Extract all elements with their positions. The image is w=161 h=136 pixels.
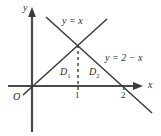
x-axis-arrow-icon bbox=[133, 82, 143, 90]
figure-container: y x O 1 2 y = x y = 2 − x D1 D2 bbox=[0, 0, 161, 136]
region-label-d1: D1 bbox=[60, 67, 70, 80]
y-axis-arrow-icon bbox=[28, 7, 36, 17]
line-y-equals-x bbox=[23, 19, 107, 95]
x-tick-label-1: 1 bbox=[75, 91, 80, 100]
line-label-y-equals-x: y = x bbox=[62, 16, 83, 26]
line-y-equals-2-minus-x bbox=[46, 17, 152, 113]
x-tick-label-2: 2 bbox=[121, 91, 126, 100]
y-axis-label: y bbox=[23, 3, 27, 13]
origin-label: O bbox=[13, 92, 20, 102]
x-axis-label: x bbox=[148, 80, 152, 90]
line-label-y-equals-2-minus-x: y = 2 − x bbox=[105, 53, 142, 63]
region-label-d1-subscript: 1 bbox=[67, 72, 70, 79]
region-label-d2-subscript: 2 bbox=[96, 72, 99, 79]
region-label-d2: D2 bbox=[89, 67, 99, 80]
